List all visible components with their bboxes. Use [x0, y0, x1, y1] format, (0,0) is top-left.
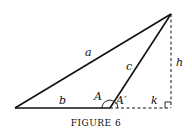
label-a: a — [85, 46, 92, 59]
side-a — [15, 14, 171, 108]
triangle-diagram: a b c h k A A′ FIGURE 6 — [0, 0, 192, 132]
figure-caption: FIGURE 6 — [71, 118, 122, 128]
label-h: h — [176, 56, 183, 69]
right-angle-mark — [165, 102, 171, 108]
label-angle-A-prime: A′ — [115, 94, 127, 107]
label-angle-A: A — [93, 90, 102, 103]
label-b: b — [59, 94, 66, 107]
label-k: k — [151, 94, 158, 107]
label-c: c — [126, 60, 132, 73]
